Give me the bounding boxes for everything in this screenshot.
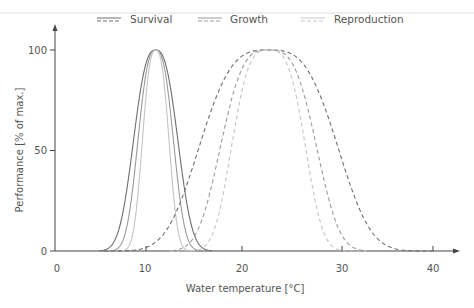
y-axis-arrow-icon (53, 24, 58, 31)
x-tick-30: 30 (336, 263, 349, 274)
x-tick-20: 20 (236, 263, 249, 274)
y-axis: 100 50 0 Performance [% of max.] (14, 24, 58, 257)
thermal-performance-chart: Survival Growth Reproduction 100 50 0 Pe… (0, 0, 474, 308)
x-axis: 0 10 20 30 40 Water temperature [°C] (54, 246, 460, 294)
y-axis-label: Performance [% of max.] (14, 88, 25, 213)
y-tick-50: 50 (34, 145, 47, 156)
x-tick-40: 40 (427, 263, 440, 274)
x-axis-label: Water temperature [°C] (186, 283, 305, 294)
legend: Survival Growth Reproduction (97, 13, 404, 25)
curve-cold-reproduction (118, 50, 193, 251)
legend-item-survival: Survival (97, 13, 172, 25)
y-tick-0: 0 (41, 246, 47, 257)
x-tick-0: 0 (54, 263, 60, 274)
x-tick-10: 10 (139, 263, 152, 274)
legend-label-reproduction: Reproduction (334, 13, 404, 25)
legend-item-growth: Growth (198, 13, 268, 25)
x-axis-arrow-icon (453, 249, 460, 254)
curve-warm-growth (151, 50, 386, 251)
y-tick-100: 100 (28, 45, 47, 56)
legend-label-survival: Survival (130, 13, 172, 25)
curve-warm-reproduction (170, 50, 367, 251)
legend-label-growth: Growth (230, 13, 268, 25)
curve-cold-survival (99, 50, 212, 251)
curve-warm-survival (104, 50, 433, 251)
performance-curves (99, 50, 433, 251)
legend-item-reproduction: Reproduction (301, 13, 404, 25)
curve-cold-growth (109, 50, 203, 251)
